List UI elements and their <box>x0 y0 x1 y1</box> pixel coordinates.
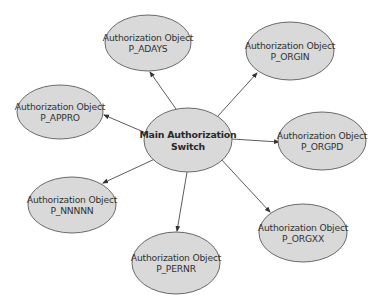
node-p_adays: Authorization ObjectP_ADAYS <box>103 15 194 71</box>
center-label-line1: Main Authorization <box>139 129 236 140</box>
arrow-to-p_orgpd <box>232 139 279 142</box>
arrow-to-p_pernr <box>177 172 187 231</box>
node-label-line2: P_PERNR <box>156 263 197 274</box>
arrow-to-p_adays <box>150 72 176 109</box>
node-label-line2: P_APPRO <box>40 112 80 123</box>
node-label-line1: Authorization Object <box>103 32 194 43</box>
node-p_orgpd: Authorization ObjectP_ORGPD <box>277 112 368 170</box>
arrow-to-p_orgin <box>218 73 257 116</box>
node-label-line2: P_ORGXX <box>282 233 324 244</box>
node-label-line2: P_ADAYS <box>129 43 168 54</box>
authorization-diagram: Authorization ObjectP_ADAYSAuthorization… <box>0 0 384 299</box>
node-label-line2: P_ORGPD <box>301 141 343 152</box>
node-label-line1: Authorization Object <box>27 194 118 205</box>
node-label-line1: Authorization Object <box>277 130 368 141</box>
node-p_orgxx: Authorization ObjectP_ORGXX <box>258 204 349 262</box>
node-p_pernr: Authorization ObjectP_PERNR <box>131 232 222 294</box>
center-ellipse <box>144 108 232 172</box>
node-label-line2: P_ORGIN <box>270 51 309 62</box>
arrow-to-p_nnnnn <box>103 158 157 183</box>
node-label-line1: Authorization Object <box>131 252 222 263</box>
node-label-line1: Authorization Object <box>258 222 349 233</box>
main-authorization-switch-node: Main Authorization Switch <box>139 108 236 172</box>
arrow-to-p_orgxx <box>220 158 270 212</box>
node-label-line2: P_NNNNN <box>50 205 93 216</box>
node-p_orgin: Authorization ObjectP_ORGIN <box>245 22 336 80</box>
node-p_appro: Authorization ObjectP_APPRO <box>15 85 106 139</box>
node-label-line1: Authorization Object <box>15 101 106 112</box>
node-label-line1: Authorization Object <box>245 40 336 51</box>
node-p_nnnnn: Authorization ObjectP_NNNNN <box>27 177 118 233</box>
center-label-line2: Switch <box>171 141 205 152</box>
